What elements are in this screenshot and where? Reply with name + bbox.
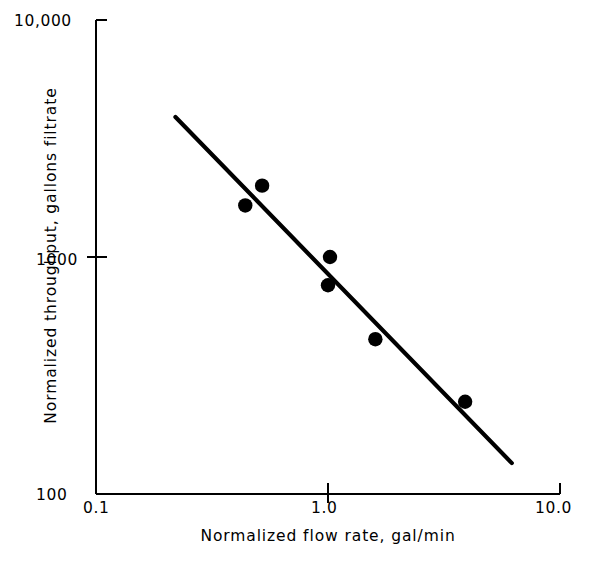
trend-line-group: [175, 117, 511, 463]
axis-ticks: [87, 20, 560, 503]
data-point: [458, 395, 472, 409]
data-point: [255, 178, 269, 192]
y-axis-title-text: Normalized throughput, gallons filtrate: [42, 87, 60, 423]
chart-plot-area: [0, 0, 591, 565]
data-point: [368, 332, 382, 346]
data-point: [238, 198, 252, 212]
x-axis-title: Normalized flow rate, gal/min: [96, 527, 560, 545]
chart-figure: 10,000 1000 100 0.1 1.0 10.0 Normalized …: [0, 0, 591, 565]
data-point: [321, 278, 335, 292]
y-tick-label-100: 100: [36, 486, 67, 504]
x-tick-label-1-0: 1.0: [311, 499, 337, 517]
data-points-group: [238, 178, 472, 409]
y-tick-label-10000: 10,000: [14, 12, 72, 30]
trend-line: [175, 117, 511, 463]
data-point: [323, 250, 337, 264]
x-tick-label-0-1: 0.1: [83, 499, 109, 517]
x-tick-label-10-0: 10.0: [535, 499, 572, 517]
y-axis-title: Normalized throughput, gallons filtrate: [41, 56, 60, 456]
